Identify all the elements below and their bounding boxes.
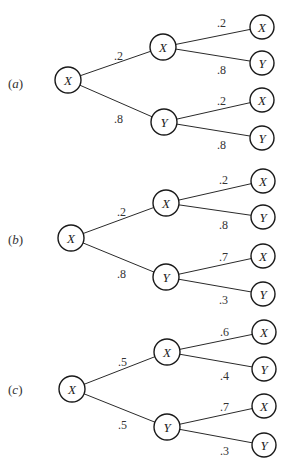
probability-trees-diagram: (a)XX.2X.2Y.8Y.8X.2Y.8(b)XX.2X.2Y.8Y.8X.…: [0, 0, 290, 461]
node-label: X: [259, 399, 269, 414]
edge-probability: .5: [118, 355, 127, 369]
edge-probability: .2: [217, 16, 226, 30]
node-label: X: [67, 382, 77, 397]
tree-b: (b)XX.2X.2Y.8Y.8X.7Y.3: [8, 169, 275, 307]
node-label: X: [258, 249, 268, 264]
edge-probability: .3: [220, 444, 229, 458]
upper-leaf-node-0: X: [251, 169, 275, 193]
lower-leaf-node-1: Y: [251, 282, 275, 306]
node-label: X: [257, 20, 267, 35]
node-label: X: [158, 40, 168, 55]
upper-branch-node: X: [154, 339, 180, 365]
upper-leaf-node-1: Y: [250, 51, 274, 75]
edge-probability: .3: [219, 293, 228, 307]
lower-leaf-node-0: X: [251, 244, 275, 268]
edge-probability: .8: [217, 138, 226, 152]
upper-leaf-node-1: Y: [251, 205, 275, 229]
node-label: X: [63, 73, 73, 88]
root-node: X: [59, 376, 85, 402]
edge-probability: .8: [217, 63, 226, 77]
edge-probability: .2: [114, 49, 123, 63]
tree-a: (a)XX.2X.2Y.8Y.8X.2Y.8: [8, 15, 274, 152]
edge-upper-to-leaf-1: [176, 49, 250, 61]
edge-probability: .2: [219, 173, 228, 187]
node-label: X: [257, 93, 267, 108]
tree-label: (c): [8, 382, 22, 397]
node-label: X: [66, 231, 76, 246]
upper-leaf-node-1: Y: [252, 357, 276, 381]
edge-probability: .2: [117, 205, 126, 219]
tree-label: (b): [8, 232, 23, 247]
edge-probability: .5: [118, 418, 127, 432]
edge-probability: .8: [219, 218, 228, 232]
lower-leaf-node-1: Y: [250, 126, 274, 150]
diagram-canvas: (a)XX.2X.2Y.8Y.8X.2Y.8(b)XX.2X.2Y.8Y.8X.…: [0, 0, 290, 461]
edge-probability: .7: [220, 400, 229, 414]
upper-leaf-node-0: X: [252, 320, 276, 344]
lower-branch-node: Y: [153, 264, 179, 290]
root-node: X: [58, 225, 84, 251]
node-label: X: [258, 174, 268, 189]
upper-branch-node: X: [150, 34, 176, 60]
edge-lower-to-leaf-1: [179, 279, 251, 292]
edge-upper-to-leaf-0: [179, 184, 252, 200]
edge-upper-to-leaf-1: [179, 205, 251, 215]
lower-leaf-node-0: X: [252, 394, 276, 418]
node-label: X: [161, 196, 171, 211]
edge-upper-to-leaf-0: [180, 334, 253, 349]
tree-c: (c)XX.5X.6Y.4Y.5X.7Y.3: [8, 320, 276, 458]
edge-lower-to-leaf-0: [177, 103, 251, 120]
edge-lower-to-leaf-0: [179, 259, 252, 275]
edge-probability: .8: [114, 112, 123, 126]
node-label: X: [259, 325, 269, 340]
edge-lower-to-leaf-1: [180, 429, 252, 442]
edge-probability: .2: [217, 94, 226, 108]
lower-branch-node: Y: [154, 414, 180, 440]
edge-upper-to-leaf-1: [180, 354, 252, 367]
edge-upper-to-leaf-0: [176, 29, 250, 44]
lower-leaf-node-1: Y: [252, 433, 276, 457]
edge-probability: .6: [220, 325, 229, 339]
edge-lower-to-leaf-1: [177, 124, 250, 136]
edge-lower-to-leaf-0: [180, 409, 253, 425]
root-node: X: [55, 67, 81, 93]
upper-leaf-node-0: X: [250, 15, 274, 39]
lower-leaf-node-0: X: [250, 88, 274, 112]
tree-label: (a): [8, 76, 23, 91]
edge-probability: .8: [117, 267, 126, 281]
lower-branch-node: Y: [151, 109, 177, 135]
edge-probability: .7: [219, 250, 228, 264]
edge-probability: .4: [220, 369, 229, 383]
node-label: X: [162, 345, 172, 360]
upper-branch-node: X: [153, 190, 179, 216]
